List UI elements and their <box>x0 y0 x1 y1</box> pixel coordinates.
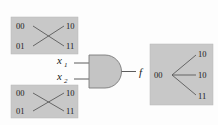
top-left-label-left-0: 00 <box>16 21 25 31</box>
right-label-left-0: 00 <box>154 70 163 80</box>
output-label-f: f <box>139 66 144 78</box>
diagram-canvas: 00 01 10 11 00 01 10 11 00 <box>0 0 218 125</box>
right-label-right-0: 10 <box>198 49 207 59</box>
right-state-box: 00 10 10 11 <box>150 44 213 105</box>
top-left-label-left-1: 01 <box>16 41 25 51</box>
bottom-left-label-left-0: 00 <box>16 88 25 98</box>
logic-diagram: 00 01 10 11 00 01 10 11 00 <box>0 0 218 125</box>
top-left-label-right-1: 11 <box>66 41 74 51</box>
bottom-left-label-right-0: 10 <box>66 88 75 98</box>
input-label-x1: x 1 <box>56 54 68 69</box>
bottom-left-label-right-1: 11 <box>66 106 74 116</box>
input-label-x2-subscript: 2 <box>64 77 68 85</box>
and-gate-shape <box>89 55 122 88</box>
bottom-left-state-box: 00 01 10 11 <box>11 85 78 118</box>
top-left-state-box: 00 01 10 11 <box>11 17 78 54</box>
bottom-left-label-left-1: 01 <box>16 106 25 116</box>
input-label-x2-base: x <box>56 70 62 82</box>
input-label-x1-subscript: 1 <box>64 61 68 69</box>
right-label-right-2: 11 <box>198 91 206 101</box>
top-left-label-right-0: 10 <box>66 21 75 31</box>
input-label-x2: x 2 <box>56 70 68 85</box>
right-label-right-1: 10 <box>198 70 207 80</box>
input-label-x1-base: x <box>56 54 62 66</box>
